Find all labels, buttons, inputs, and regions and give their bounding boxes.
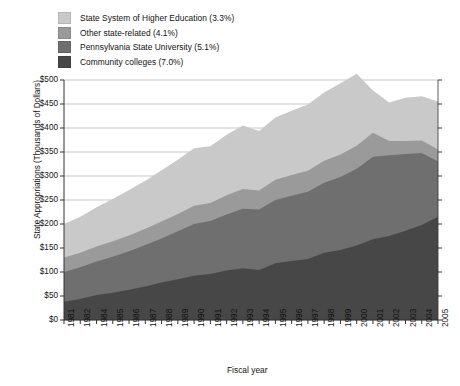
x-tick-label: 2003 (409, 309, 418, 327)
y-tick-label: $150 (16, 243, 58, 252)
x-tick-label: 2000 (360, 309, 369, 327)
x-tick-label: 1986 (132, 309, 141, 327)
x-tick-label: 1982 (83, 309, 92, 327)
x-tick-label: 1992 (230, 309, 239, 327)
y-tick-label: $350 (16, 147, 58, 156)
x-tick-label: 1998 (327, 309, 336, 327)
x-tick-label: 1994 (262, 309, 271, 327)
x-tick-label: 1981 (67, 309, 76, 327)
y-tick-label: $400 (16, 123, 58, 132)
x-tick-label: 1997 (311, 309, 320, 327)
x-tick-label: 1991 (214, 309, 223, 327)
x-tick-label: 1995 (279, 309, 288, 327)
y-tick-label: $250 (16, 195, 58, 204)
x-tick-label: 1984 (100, 309, 109, 327)
y-tick-label: $500 (16, 75, 58, 84)
x-tick-label: 1999 (344, 309, 353, 327)
chart-plot-area (0, 0, 460, 386)
x-tick-label: 1990 (197, 309, 206, 327)
x-tick-label: 2001 (376, 309, 385, 327)
y-tick-label: $450 (16, 99, 58, 108)
x-tick-label: 2004 (425, 309, 434, 327)
x-tick-label: 1989 (181, 309, 190, 327)
x-tick-label: 2002 (392, 309, 401, 327)
area-series-group (64, 74, 438, 320)
y-tick-label: $0 (16, 315, 58, 324)
y-tick-label: $300 (16, 171, 58, 180)
y-axis-title: State Appropriations (Thousands of Dolla… (33, 60, 42, 260)
x-tick-label: 1988 (165, 309, 174, 327)
x-tick-label: 2005 (441, 309, 450, 327)
x-tick-label: 1993 (246, 309, 255, 327)
stacked-area-chart (0, 0, 460, 386)
x-tick-label: 1996 (295, 309, 304, 327)
y-tick-label: $50 (16, 291, 58, 300)
figure-container: State System of Higher Education (3.3%)O… (0, 0, 460, 386)
x-axis-title: Fiscal year (227, 365, 268, 375)
y-tick-label: $100 (16, 267, 58, 276)
y-tick-label: $200 (16, 219, 58, 228)
x-tick-label: 1987 (149, 309, 158, 327)
x-tick-label: 1985 (116, 309, 125, 327)
